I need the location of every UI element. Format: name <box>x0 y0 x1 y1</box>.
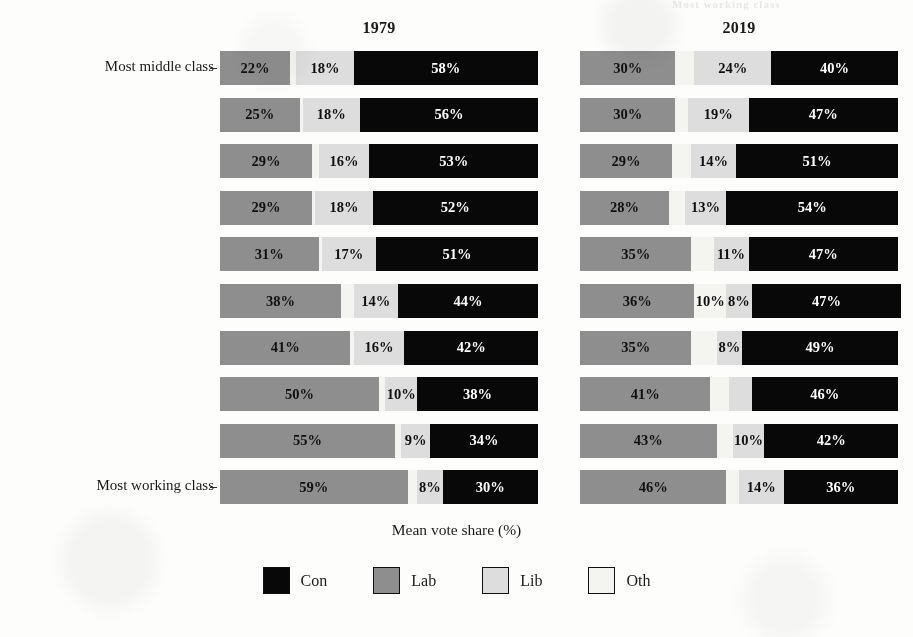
bar-segment-con: 51% <box>736 144 898 178</box>
bar-row: 29%14%51% <box>580 144 898 178</box>
bar-segment-label: 16% <box>330 153 359 170</box>
bar-segment-label: 14% <box>361 293 390 310</box>
legend-item-con[interactable]: Con <box>263 567 328 594</box>
bar-segment-lab: 41% <box>220 331 350 365</box>
bar-segment-lab: 29% <box>220 144 312 178</box>
bar-segment-label: 30% <box>613 106 642 123</box>
bar-segment-lab: 25% <box>220 98 300 132</box>
bar-segment-label: 34% <box>469 432 498 449</box>
bar-segment-label: 51% <box>802 153 831 170</box>
bar-segment-lab: 38% <box>220 284 341 318</box>
bar-segment-label: 22% <box>240 60 269 77</box>
bar-segment-label: 41% <box>271 339 300 356</box>
bar-segment-label: 47% <box>812 293 841 310</box>
chart-canvas: Most working class 1979 2019 Most middle… <box>0 0 913 637</box>
panel-title-2019: 2019 <box>580 19 898 37</box>
bar-segment-oth: 10% <box>694 284 726 318</box>
bar-segment-con: 47% <box>752 284 901 318</box>
bar-segment-oth <box>675 51 694 85</box>
bar-segment-label: 58% <box>431 60 460 77</box>
legend-swatch-lab-icon <box>373 567 400 594</box>
bar-row: 41%16%42% <box>220 331 538 365</box>
page-bleed-text: Most working class <box>672 0 842 10</box>
bar-segment-lib: 19% <box>688 98 748 132</box>
bar-segment-label: 38% <box>463 386 492 403</box>
bar-segment-label: 18% <box>330 199 359 216</box>
bar-segment-label: 59% <box>299 479 328 496</box>
bar-segment-con: 47% <box>749 98 898 132</box>
bar-segment-con: 49% <box>742 331 898 365</box>
bar-segment-lab: 55% <box>220 424 395 458</box>
bar-segment-lib: 10% <box>385 377 417 411</box>
legend-swatch-oth-icon <box>588 567 615 594</box>
bar-segment-lib: 14% <box>691 144 736 178</box>
bar-row: 22%18%58% <box>220 51 538 85</box>
bar-segment-lib: 17% <box>322 237 376 271</box>
bar-segment-label: 24% <box>718 60 747 77</box>
bar-segment-label: 30% <box>476 479 505 496</box>
bar-segment-con: 53% <box>369 144 538 178</box>
legend-item-lib[interactable]: Lib <box>482 567 542 594</box>
legend: ConLabLibOth <box>0 567 913 594</box>
bar-segment-label: 53% <box>439 153 468 170</box>
y-label-most-working-class: Most working class <box>97 477 215 494</box>
bar-row: 36%10%8%47% <box>580 284 898 318</box>
bar-segment-oth <box>408 470 418 504</box>
legend-label: Oth <box>626 572 650 590</box>
bar-segment-label: 52% <box>441 199 470 216</box>
bar-segment-lab: 30% <box>580 98 675 132</box>
bar-segment-label: 38% <box>266 293 295 310</box>
bar-segment-con: 51% <box>376 237 538 271</box>
bar-segment-label: 18% <box>310 60 339 77</box>
bar-segment-label: 46% <box>810 386 839 403</box>
bar-segment-con: 58% <box>354 51 538 85</box>
bar-segment-label: 8% <box>419 479 441 496</box>
bar-segment-label: 35% <box>621 246 650 263</box>
bar-segment-con: 42% <box>764 424 898 458</box>
bar-segment-oth <box>669 191 685 225</box>
bar-segment-lib: 8% <box>417 470 442 504</box>
bar-segment-label: 8% <box>728 293 750 310</box>
bar-segment-label: 43% <box>634 432 663 449</box>
bar-segment-lib: 18% <box>296 51 353 85</box>
bar-segment-label: 25% <box>245 106 274 123</box>
bar-row: 43%10%42% <box>580 424 898 458</box>
legend-item-oth[interactable]: Oth <box>588 567 650 594</box>
bar-row: 30%24%40% <box>580 51 898 85</box>
bar-segment-label: 18% <box>317 106 346 123</box>
bar-segment-label: 51% <box>442 246 471 263</box>
bar-segment-lib: 11% <box>714 237 749 271</box>
bar-segment-label: 35% <box>621 339 650 356</box>
bar-segment-lab: 35% <box>580 237 691 271</box>
bar-segment-con: 40% <box>771 51 898 85</box>
legend-label: Lab <box>411 572 436 590</box>
bar-segment-label: 31% <box>255 246 284 263</box>
bar-segment-lab: 50% <box>220 377 379 411</box>
bar-segment-label: 29% <box>252 153 281 170</box>
bar-segment-label: 54% <box>798 199 827 216</box>
y-axis-tick <box>210 68 217 69</box>
bar-segment-label: 36% <box>623 293 652 310</box>
bar-segment-oth <box>717 424 733 458</box>
bar-segment-con: 56% <box>360 98 538 132</box>
legend-item-lab[interactable]: Lab <box>373 567 436 594</box>
panel-title-1979: 1979 <box>220 19 538 37</box>
bar-segment-label: 17% <box>334 246 363 263</box>
bar-row: 50%10%38% <box>220 377 538 411</box>
bar-segment-label: 10% <box>734 432 763 449</box>
bar-segment-oth <box>341 284 354 318</box>
bar-row: 29%18%52% <box>220 191 538 225</box>
bar-segment-lab: 35% <box>580 331 691 365</box>
bar-segment-label: 41% <box>631 386 660 403</box>
bar-segment-label: 19% <box>704 106 733 123</box>
bar-segment-label: 44% <box>454 293 483 310</box>
bar-segment-lib: 10% <box>733 424 765 458</box>
bar-segment-label: 28% <box>610 199 639 216</box>
bar-segment-lab: 29% <box>220 191 312 225</box>
y-label-most-middle-class: Most middle class <box>105 58 214 75</box>
bar-row: 25%18%56% <box>220 98 538 132</box>
bar-segment-con: 47% <box>749 237 898 271</box>
bar-segment-label: 29% <box>612 153 641 170</box>
bar-segment-label: 16% <box>364 339 393 356</box>
bar-segment-label: 42% <box>457 339 486 356</box>
